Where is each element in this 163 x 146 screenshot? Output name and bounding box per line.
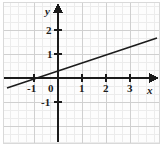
y-axis-label: y: [45, 6, 50, 17]
x-tick-label-1: 1: [79, 83, 85, 94]
y-tick-label-neg1: -1: [41, 97, 50, 108]
plot-canvas: [0, 0, 163, 146]
y-tick-label-2: 2: [46, 25, 52, 36]
y-tick-label-1: 1: [47, 49, 53, 60]
coordinate-graph-figure: y x 2 1 -1 -1 1 2 3 0: [0, 0, 163, 146]
x-tick-label-3: 3: [127, 83, 133, 94]
x-tick-label-2: 2: [103, 83, 109, 94]
x-tick-label-neg1: -1: [27, 83, 36, 94]
x-axis-label: x: [147, 85, 153, 96]
origin-label: 0: [48, 83, 54, 94]
